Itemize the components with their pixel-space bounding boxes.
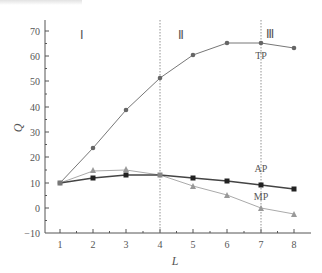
region-label-1: Ⅰ xyxy=(80,28,84,42)
y-tick-30: 30 xyxy=(30,127,40,138)
x-tick-3: 3 xyxy=(124,239,129,250)
y-tick-40: 40 xyxy=(30,102,40,113)
y-tick-20: 20 xyxy=(30,152,40,163)
y-tick-labels: 70 60 50 40 30 20 10 0 −10 xyxy=(24,26,40,239)
stage-dividers xyxy=(160,20,261,233)
x-tick-8: 8 xyxy=(292,239,297,250)
x-tick-4: 4 xyxy=(158,239,163,250)
y-tick-70: 70 xyxy=(30,26,40,37)
x-tick-labels: 1 2 3 4 5 6 7 8 xyxy=(58,239,297,250)
x-tick-1: 1 xyxy=(58,239,63,250)
y-tick-60: 60 xyxy=(30,51,40,62)
y-axis xyxy=(45,20,49,233)
region-label-3: Ⅲ xyxy=(266,27,274,41)
x-tick-6: 6 xyxy=(225,239,230,250)
x-tick-7: 7 xyxy=(259,239,264,250)
y-tick-0: 0 xyxy=(35,203,40,214)
region-label-2: Ⅱ xyxy=(178,28,184,42)
production-chart: 70 60 50 40 30 20 10 0 −10 1 2 3 4 5 6 7… xyxy=(0,0,322,273)
y-axis-title: Q xyxy=(11,123,25,132)
label-mp: MP xyxy=(254,191,269,202)
x-tick-2: 2 xyxy=(91,239,96,250)
x-tick-5: 5 xyxy=(191,239,196,250)
label-ap: AP xyxy=(255,163,268,174)
y-tick-10: 10 xyxy=(30,178,40,189)
y-tick-50: 50 xyxy=(30,76,40,87)
x-axis-title: L xyxy=(171,254,179,268)
label-tp: TP xyxy=(255,50,267,61)
x-axis xyxy=(45,229,311,233)
y-tick-neg10: −10 xyxy=(24,228,40,239)
